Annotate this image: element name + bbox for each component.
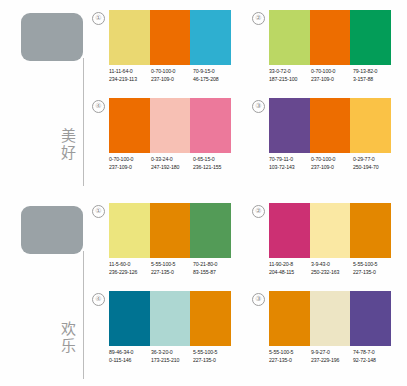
cmyk-value: 0-33-24-0 bbox=[151, 156, 193, 164]
color-swatch[interactable] bbox=[150, 203, 191, 258]
swatch-code: 0-33-24-0 247-192-180 bbox=[151, 156, 193, 171]
group-number-badge: ④ bbox=[92, 293, 105, 306]
rgb-value: 237-109-0 bbox=[109, 164, 151, 172]
cmyk-value: 89-46-34-0 bbox=[109, 349, 151, 357]
cmyk-value: 5-55-100-5 bbox=[353, 261, 395, 269]
swatch-row bbox=[109, 203, 231, 258]
section-2-keyword-char-1: 欢 bbox=[56, 321, 80, 338]
color-swatch[interactable] bbox=[109, 10, 150, 65]
color-swatch[interactable] bbox=[310, 203, 351, 258]
swatch-row bbox=[269, 98, 391, 153]
rgb-value: 3-157-88 bbox=[353, 76, 395, 84]
swatch-code: 33-0-72-0 187-215-100 bbox=[269, 68, 311, 83]
rgb-value: 227-135-0 bbox=[151, 269, 193, 277]
cmyk-value: 9-9-27-0 bbox=[311, 349, 353, 357]
color-swatch[interactable] bbox=[150, 98, 191, 153]
swatch-code: 5-55-100-5 227-135-0 bbox=[193, 349, 235, 364]
color-swatch[interactable] bbox=[269, 291, 310, 346]
swatch-code: 5-55-100-5 227-135-0 bbox=[269, 349, 311, 364]
section-1-keyword-char-2: 好 bbox=[56, 145, 80, 162]
cmyk-value: 5-55-100-5 bbox=[151, 261, 193, 269]
palette-sheet: 美 好 ① 11-11-64-0 234-219-113 0-70-100-0 … bbox=[0, 0, 407, 386]
swatch-code: 89-46-34-0 0-115-146 bbox=[109, 349, 151, 364]
rgb-value: 236-229-126 bbox=[109, 269, 151, 277]
swatch-code: 11-5-60-0 236-229-126 bbox=[109, 261, 151, 276]
group-number-badge: ③ bbox=[252, 100, 265, 113]
cmyk-value: 0-65-15-0 bbox=[193, 156, 235, 164]
cmyk-value: 33-0-72-0 bbox=[269, 68, 311, 76]
rgb-value: 236-121-155 bbox=[193, 164, 235, 172]
palette-section-1: 美 好 ① 11-11-64-0 234-219-113 0-70-100-0 … bbox=[0, 0, 407, 193]
cmyk-value: 3-9-43-0 bbox=[311, 261, 353, 269]
color-swatch[interactable] bbox=[150, 291, 191, 346]
swatch-row bbox=[269, 203, 391, 258]
rgb-value: 237-229-196 bbox=[311, 357, 353, 365]
cmyk-value: 5-55-100-5 bbox=[269, 349, 311, 357]
color-swatch[interactable] bbox=[190, 10, 231, 65]
cmyk-value: 11-5-60-0 bbox=[109, 261, 151, 269]
swatch-code: 0-70-100-0 237-109-0 bbox=[311, 68, 353, 83]
palette-section-2: 欢 乐 ① 11-5-60-0 236-229-126 5-55-100-5 2… bbox=[0, 193, 407, 386]
cmyk-value: 0-70-100-0 bbox=[109, 156, 151, 164]
swatch-code: 0-70-100-0 237-109-0 bbox=[109, 156, 151, 171]
color-swatch[interactable] bbox=[109, 291, 150, 346]
rgb-value: 227-135-0 bbox=[269, 357, 311, 365]
color-swatch[interactable] bbox=[350, 10, 391, 65]
section-2-key-column: 欢 乐 bbox=[0, 193, 100, 386]
color-swatch[interactable] bbox=[350, 291, 391, 346]
swatch-codes: 5-55-100-5 227-135-0 9-9-27-0 237-229-19… bbox=[269, 349, 397, 364]
swatch-code: 5-55-100-5 227-135-0 bbox=[151, 261, 193, 276]
swatch-code: 0-65-15-0 236-121-155 bbox=[193, 156, 235, 171]
color-swatch[interactable] bbox=[310, 98, 351, 153]
color-swatch[interactable] bbox=[310, 291, 351, 346]
swatch-code: 70-21-80-0 83-155-87 bbox=[193, 261, 235, 276]
cmyk-value: 11-90-20-8 bbox=[269, 261, 311, 269]
color-swatch[interactable] bbox=[150, 10, 191, 65]
color-swatch[interactable] bbox=[269, 98, 310, 153]
swatch-code: 9-9-27-0 237-229-196 bbox=[311, 349, 353, 364]
color-swatch[interactable] bbox=[269, 10, 310, 65]
swatch-code: 0-29-77-0 250-194-70 bbox=[353, 156, 395, 171]
color-swatch[interactable] bbox=[109, 98, 150, 153]
color-swatch[interactable] bbox=[310, 10, 351, 65]
section-1-connector-line bbox=[83, 58, 84, 186]
swatch-codes: 0-70-100-0 237-109-0 0-33-24-0 247-192-1… bbox=[109, 156, 237, 171]
group-number-badge: ② bbox=[252, 12, 265, 25]
color-swatch[interactable] bbox=[269, 203, 310, 258]
swatch-codes: 11-5-60-0 236-229-126 5-55-100-5 227-135… bbox=[109, 261, 237, 276]
color-swatch[interactable] bbox=[109, 203, 150, 258]
cmyk-value: 0-70-100-0 bbox=[151, 68, 193, 76]
rgb-value: 237-109-0 bbox=[151, 76, 193, 84]
group-number-badge: ② bbox=[252, 205, 265, 218]
cmyk-value: 0-70-100-0 bbox=[311, 68, 353, 76]
rgb-value: 204-48-115 bbox=[269, 269, 311, 277]
cmyk-value: 70-79-11-0 bbox=[269, 156, 311, 164]
rgb-value: 250-194-70 bbox=[353, 164, 395, 172]
cmyk-value: 70-9-15-0 bbox=[193, 68, 235, 76]
swatch-row bbox=[109, 10, 231, 65]
cmyk-value: 79-13-82-0 bbox=[353, 68, 395, 76]
section-2-key-swatch bbox=[21, 206, 83, 254]
color-swatch[interactable] bbox=[350, 98, 391, 153]
swatch-codes: 11-11-64-0 234-219-113 0-70-100-0 237-10… bbox=[109, 68, 237, 83]
color-swatch[interactable] bbox=[190, 98, 231, 153]
swatch-code: 11-11-64-0 234-219-113 bbox=[109, 68, 151, 83]
cmyk-value: 0-29-77-0 bbox=[353, 156, 395, 164]
rgb-value: 46-175-208 bbox=[193, 76, 235, 84]
color-swatch[interactable] bbox=[190, 291, 231, 346]
cmyk-value: 11-11-64-0 bbox=[109, 68, 151, 76]
swatch-codes: 33-0-72-0 187-215-100 0-70-100-0 237-109… bbox=[269, 68, 397, 83]
cmyk-value: 36-3-20-0 bbox=[151, 349, 193, 357]
rgb-value: 92-72-148 bbox=[353, 357, 395, 365]
swatch-row bbox=[269, 10, 391, 65]
rgb-value: 227-135-0 bbox=[193, 357, 235, 365]
swatch-codes: 89-46-34-0 0-115-146 36-3-20-0 173-215-2… bbox=[109, 349, 237, 364]
color-swatch[interactable] bbox=[350, 203, 391, 258]
swatch-row bbox=[109, 98, 231, 153]
rgb-value: 250-232-163 bbox=[311, 269, 353, 277]
swatch-code: 70-9-15-0 46-175-208 bbox=[193, 68, 235, 83]
cmyk-value: 5-55-100-5 bbox=[193, 349, 235, 357]
rgb-value: 247-192-180 bbox=[151, 164, 193, 172]
color-swatch[interactable] bbox=[190, 203, 231, 258]
rgb-value: 103-72-143 bbox=[269, 164, 311, 172]
